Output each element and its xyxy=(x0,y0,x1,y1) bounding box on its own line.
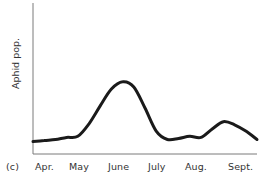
y-axis-label: Aphid pop. xyxy=(10,38,21,89)
aphid-population-curve xyxy=(33,82,257,142)
aphid-population-chart xyxy=(0,0,263,181)
x-tick-may: May xyxy=(69,161,89,172)
x-tick-july: July xyxy=(148,161,165,172)
x-tick-aug: Aug. xyxy=(185,161,207,172)
x-tick-apr: Apr. xyxy=(35,161,54,172)
panel-label: (c) xyxy=(6,161,19,172)
x-tick-sept: Sept. xyxy=(228,161,253,172)
x-tick-june: June xyxy=(108,161,129,172)
